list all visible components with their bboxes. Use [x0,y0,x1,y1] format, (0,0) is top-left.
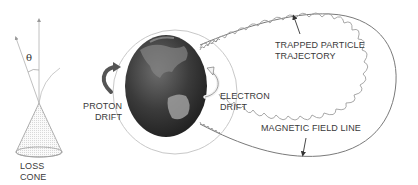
trapped-particle-label-line1: TRAPPED PARTICLE [275,40,365,51]
electron-drift-label-line2: DRIFT [220,102,270,113]
proton-drift-label: PROTON DRIFT [74,101,122,123]
loss-cone-label-line1: LOSS [20,161,46,172]
theta-symbol: θ [26,52,32,63]
diagram-canvas [0,0,418,185]
magnetic-field-line-label: MAGNETIC FIELD LINE [261,123,361,134]
earth-globe [125,35,207,137]
trapped-particle-label-line2: TRAJECTORY [275,51,365,62]
magnetic-field-line [200,14,396,157]
trapped-particle-trajectory [200,13,368,133]
loss-cone-label: LOSS CONE [20,161,46,183]
electron-drift-arrow [205,67,218,97]
loss-cone-label-line2: CONE [20,172,46,183]
trapped-particle-label: TRAPPED PARTICLE TRAJECTORY [275,40,365,62]
magnetosphere-diagram: θ LOSS CONE PROTON DRIFT ELECTRON DRIFT … [0,0,418,185]
electron-drift-label: ELECTRON DRIFT [220,91,270,113]
proton-drift-label-line1: PROTON [74,101,122,112]
proton-drift-arrow [104,62,121,92]
electron-drift-label-line1: ELECTRON [220,91,270,102]
proton-drift-label-line2: DRIFT [74,112,122,123]
loss-cone [16,20,62,157]
